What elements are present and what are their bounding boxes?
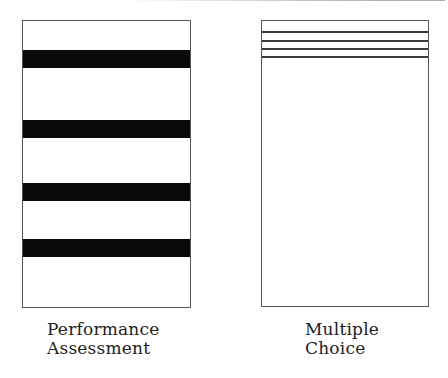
caption-line: Assessment [47, 339, 160, 358]
black-band [23, 50, 190, 68]
thin-line [262, 48, 428, 50]
caption-line: Multiple [305, 320, 379, 339]
black-band [23, 239, 190, 257]
multiple-choice-caption: Multiple Choice [305, 320, 379, 358]
thin-line [262, 31, 428, 33]
caption-line: Performance [47, 320, 160, 339]
caption-line: Choice [305, 339, 379, 358]
performance-assessment-caption: Performance Assessment [47, 320, 160, 358]
performance-assessment-panel [22, 20, 191, 308]
multiple-choice-panel [261, 20, 429, 307]
thin-line [262, 56, 428, 58]
black-band [23, 120, 190, 138]
thin-line [262, 40, 428, 42]
scan-edge-artifact [120, 0, 445, 1]
black-band [23, 183, 190, 201]
